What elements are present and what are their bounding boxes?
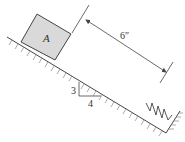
incline-diagram: A 6″ 3 4 [0, 0, 185, 142]
block-label: A [42, 32, 50, 44]
slope-run-label: 4 [88, 98, 93, 109]
spring [146, 103, 172, 120]
dimension-label: 6″ [120, 30, 129, 41]
incline-surface [7, 37, 166, 136]
wall [166, 111, 183, 133]
distance-dimension: 6″ [72, 5, 173, 83]
slope-triangle: 3 4 [71, 82, 101, 109]
slope-rise-label: 3 [71, 85, 76, 96]
